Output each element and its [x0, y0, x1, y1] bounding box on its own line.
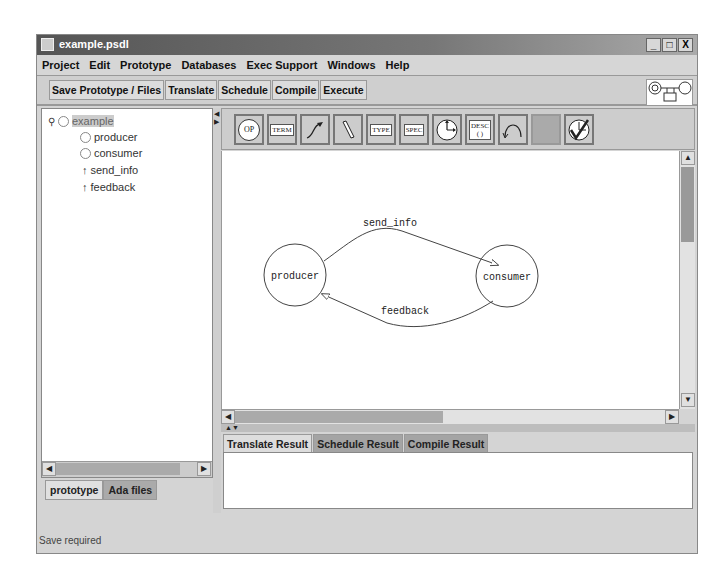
menu-windows[interactable]: Windows — [322, 59, 380, 71]
tree-item-label: consumer — [94, 147, 142, 159]
app-icon — [41, 38, 54, 51]
timer-tool-button[interactable] — [432, 114, 462, 145]
clock-icon — [435, 118, 459, 142]
scroll-thumb[interactable] — [681, 167, 694, 242]
op-tool-button[interactable]: OP — [234, 114, 264, 145]
tab-schedule-result[interactable]: Schedule Result — [313, 434, 403, 454]
editor-panel: OP TERM TYPE SPEC — [221, 108, 695, 513]
menu-prototype[interactable]: Prototype — [115, 59, 176, 71]
close-button[interactable]: X — [678, 38, 693, 52]
title-bar[interactable]: example.psdl _ □ X — [37, 35, 697, 55]
menu-exec-support[interactable]: Exec Support — [241, 59, 322, 71]
diagram-canvas[interactable]: producer consumer send_info feedback — [221, 151, 680, 409]
svg-text:consumer: consumer — [483, 272, 531, 283]
spec-icon: SPEC — [404, 124, 425, 136]
stream-arrow-icon: ↑ — [82, 181, 88, 193]
type-icon: TYPE — [370, 124, 392, 136]
operator-circle-icon — [58, 116, 69, 127]
tab-prototype[interactable]: prototype — [45, 480, 103, 500]
tree-horizontal-scrollbar[interactable]: ◀ ▶ — [42, 461, 212, 477]
prototype-tree-panel: ⚲ example producer consumer ↑ send_info … — [41, 108, 217, 513]
self-loop-tool-button[interactable] — [498, 114, 528, 145]
tool-palette: OP TERM TYPE SPEC — [221, 108, 695, 150]
maximize-button[interactable]: □ — [662, 38, 677, 52]
tree-root[interactable]: ⚲ example — [48, 115, 114, 127]
pencil-tool-button[interactable] — [333, 114, 363, 145]
scroll-thumb[interactable] — [235, 411, 443, 423]
scroll-right-icon[interactable]: ▶ — [665, 410, 679, 424]
prototype-tree[interactable]: ⚲ example producer consumer ↑ send_info … — [41, 108, 213, 478]
tab-translate-result[interactable]: Translate Result — [223, 434, 312, 454]
tree-item-label: producer — [94, 131, 137, 143]
menu-project[interactable]: Project — [37, 59, 84, 71]
stream-arrow-icon: ↑ — [82, 164, 88, 176]
operator-circle-icon — [80, 132, 91, 143]
scroll-right-icon[interactable]: ▶ — [197, 462, 211, 476]
tree-key-icon[interactable]: ⚲ — [48, 116, 55, 127]
menu-edit[interactable]: Edit — [84, 59, 115, 71]
tree-item-label: feedback — [91, 181, 136, 193]
pencil-icon — [337, 119, 359, 141]
canvas-vertical-scrollbar[interactable]: ▲ ▼ — [679, 151, 695, 409]
scroll-up-icon[interactable]: ▲ — [681, 151, 695, 165]
edge-send-info[interactable]: send_info — [324, 218, 498, 265]
svg-text:feedback: feedback — [381, 306, 429, 317]
spec-tool-button[interactable]: SPEC — [399, 114, 429, 145]
tab-ada-files[interactable]: Ada files — [103, 480, 157, 500]
term-icon: TERM — [270, 124, 293, 136]
tab-compile-result[interactable]: Compile Result — [404, 434, 488, 454]
operator-circle-icon — [80, 148, 91, 159]
node-consumer[interactable]: consumer — [476, 245, 538, 307]
tree-item-producer[interactable]: producer — [80, 131, 137, 143]
compile-button[interactable]: Compile — [272, 80, 319, 100]
scroll-down-icon[interactable]: ▼ — [681, 393, 695, 407]
svg-text:send_info: send_info — [363, 218, 417, 229]
tree-root-label: example — [72, 115, 114, 127]
term-tool-button[interactable]: TERM — [267, 114, 297, 145]
execute-button[interactable]: Execute — [320, 80, 366, 100]
splitter-arrows-icon[interactable]: ◀▶ — [213, 108, 221, 126]
application-window: example.psdl _ □ X Project Edit Prototyp… — [36, 34, 698, 554]
schedule-button[interactable]: Schedule — [218, 80, 271, 100]
desc-tool-button[interactable]: DESC ( ) — [465, 114, 495, 145]
stream-curve-icon — [304, 119, 326, 141]
menu-bar: Project Edit Prototype Databases Exec Su… — [37, 55, 697, 76]
result-output-area[interactable] — [223, 452, 693, 509]
scroll-left-icon[interactable]: ◀ — [42, 462, 56, 476]
check-clock-icon — [567, 118, 591, 142]
minimize-button[interactable]: _ — [646, 38, 661, 52]
splitter-arrows-icon[interactable]: ▲▼ — [225, 424, 239, 431]
check-timer-tool-button[interactable] — [564, 114, 594, 145]
tree-item-send-info[interactable]: ↑ send_info — [82, 164, 138, 176]
edge-feedback[interactable]: feedback — [322, 294, 493, 327]
svg-text:producer: producer — [271, 271, 319, 282]
node-producer[interactable]: producer — [264, 244, 326, 306]
menu-databases[interactable]: Databases — [176, 59, 241, 71]
canvas-horizontal-scrollbar[interactable]: ◀ ▶ — [221, 409, 679, 424]
graph-logo-icon — [646, 79, 693, 106]
window-title: example.psdl — [59, 38, 129, 50]
arc-icon — [501, 119, 525, 141]
op-circle-icon: OP — [238, 119, 260, 141]
type-tool-button[interactable]: TYPE — [366, 114, 396, 145]
status-bar-text: Save required — [39, 535, 101, 546]
tree-item-feedback[interactable]: ↑ feedback — [82, 181, 135, 193]
horizontal-splitter[interactable]: ▲▼ — [221, 424, 695, 432]
desc-icon: DESC ( ) — [469, 120, 491, 140]
menu-help[interactable]: Help — [381, 59, 415, 71]
disabled-tool-button[interactable] — [531, 114, 561, 145]
scroll-thumb[interactable] — [56, 463, 180, 475]
toolbar: Save Prototype / Files Translate Schedul… — [37, 76, 697, 106]
tree-item-consumer[interactable]: consumer — [80, 147, 142, 159]
tree-item-label: send_info — [91, 164, 139, 176]
translate-button[interactable]: Translate — [165, 80, 217, 100]
scroll-left-icon[interactable]: ◀ — [221, 410, 235, 424]
vertical-splitter[interactable]: ◀▶ — [213, 108, 221, 513]
stream-tool-button[interactable] — [300, 114, 330, 145]
save-prototype-button[interactable]: Save Prototype / Files — [49, 80, 164, 100]
